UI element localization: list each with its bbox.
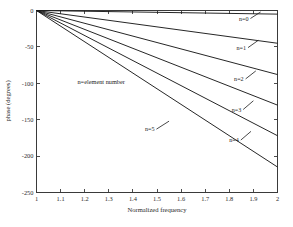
series-label-n1: n=1 [237,45,247,51]
element-number-note: n=element number [77,78,125,85]
series-label-n4: n=4 [229,137,239,143]
series-label-n5: n=5 [145,126,155,132]
y-axis-title: phase (degrees) [4,80,12,121]
x-tick-label-7: 1.7 [201,195,210,202]
y-tick-label-0: 0 [30,7,33,14]
y-tick-label-2: -100 [22,80,34,87]
chart-annotations: n=element number [77,78,125,85]
x-tick-label-4: 1.4 [129,195,138,202]
y-tick-label-1: -50 [25,43,34,50]
x-tick-label-5: 1.5 [153,195,161,202]
series-label-n2: n=2 [234,76,244,82]
series-label-n3: n=3 [232,107,242,113]
x-tick-label-6: 1.6 [177,195,185,202]
y-tick-label-3: -150 [22,116,34,123]
x-tick-label-0: 1 [35,195,38,202]
x-tick-label-9: 1.9 [249,195,257,202]
y-tick-label-5: -250 [22,189,34,196]
x-tick-label-8: 1.8 [225,195,233,202]
x-tick-label-2: 1.2 [81,195,89,202]
x-axis-title: Normalized frequency [127,206,187,213]
y-tick-label-4: -200 [22,152,34,159]
series-label-n0: n=0 [239,16,249,22]
x-tick-label-3: 1.3 [105,195,113,202]
x-tick-label-1: 1.1 [57,195,65,202]
chart-screenshot: 11.11.21.31.41.51.61.71.81.92 0-50-100-1… [0,0,293,227]
phase-response-chart: 11.11.21.31.41.51.61.71.81.92 0-50-100-1… [0,0,293,227]
x-tick-label-10: 2 [276,195,279,202]
